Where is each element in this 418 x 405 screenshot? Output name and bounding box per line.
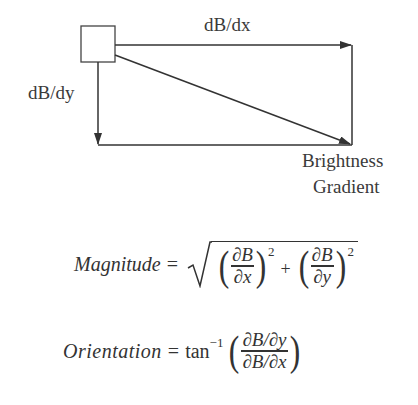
fraction-dB-dy: ∂B ∂y [311, 245, 334, 286]
pixel-square [81, 26, 115, 62]
numerator: ∂B [231, 245, 254, 265]
left-paren: ( [229, 330, 240, 372]
numerator: ∂B/∂y [241, 330, 287, 350]
orientation-lhs: Orientation [63, 340, 162, 363]
plus-sign: + [280, 259, 290, 280]
brightness-gradient-label-line1: Brightness [302, 150, 383, 172]
sqrt-icon [186, 240, 212, 288]
right-paren: ) [289, 330, 300, 372]
right-paren: ) [256, 245, 267, 287]
magnitude-formula: Magnitude = ( ∂B ∂x ) 2 + ( ∂B ∂y ) 2 [74, 240, 354, 288]
numerator: ∂B [311, 245, 334, 265]
orientation-formula: Orientation = tan −1 ( ∂B/∂y ∂B/∂x ) [63, 330, 302, 372]
brightness-gradient-label-line2: Gradient [313, 176, 379, 198]
denominator: ∂y [312, 267, 332, 287]
left-paren: ( [298, 245, 309, 287]
exponent: 2 [268, 244, 275, 260]
gradient-arrow [115, 55, 350, 144]
equals-sign: = [168, 340, 179, 363]
denominator: ∂B/∂x [241, 352, 287, 372]
exponent: 2 [348, 244, 355, 260]
tan-function: tan [185, 340, 209, 363]
fraction-dB-dx: ∂B ∂x [231, 245, 254, 286]
denominator: ∂x [233, 267, 253, 287]
inverse-superscript: −1 [210, 335, 224, 351]
magnitude-lhs: Magnitude [74, 253, 161, 276]
orientation-fraction: ∂B/∂y ∂B/∂x [241, 330, 287, 371]
right-paren: ) [335, 245, 346, 287]
equals-sign: = [167, 253, 178, 276]
dy-label: dB/dy [28, 82, 74, 104]
left-paren: ( [219, 245, 230, 287]
square-root: ( ∂B ∂x ) 2 + ( ∂B ∂y ) 2 [186, 240, 354, 288]
dx-label: dB/dx [204, 14, 250, 36]
